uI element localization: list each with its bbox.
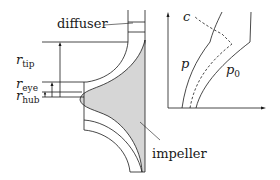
diffuser-label: diffuser (57, 16, 108, 31)
c-label: c (183, 9, 191, 24)
figure: diffuser impeller rtip reye rhub c p p0 (0, 0, 280, 180)
hub-curve-outer (84, 130, 130, 172)
x-axis-arrow-icon (261, 107, 266, 110)
diffuser-leader (104, 23, 133, 25)
impeller-section (42, 10, 145, 172)
r-tip-label: rtip (16, 52, 35, 69)
p0-label: p0 (226, 62, 240, 79)
arrow-heads (44, 42, 62, 95)
diffuser-channel (128, 10, 145, 42)
impeller-label: impeller (152, 146, 208, 161)
impeller-body (80, 40, 145, 172)
curve-p0 (196, 12, 251, 108)
y-axis-arrow-icon (167, 12, 170, 17)
p-label: p (181, 56, 190, 71)
